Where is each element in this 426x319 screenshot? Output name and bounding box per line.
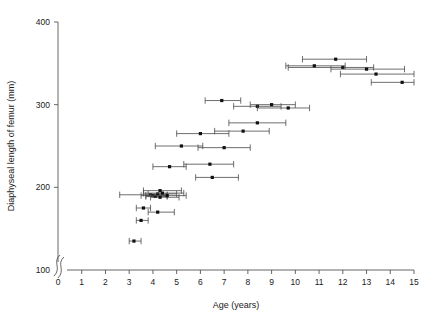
data-point-marker — [211, 176, 214, 179]
data-point-marker — [132, 239, 135, 242]
data-point-marker — [166, 194, 169, 197]
data-point-marker — [223, 146, 226, 149]
data-point-marker — [256, 121, 259, 124]
x-tick-label-10: 10 — [291, 277, 301, 287]
data-point-marker — [180, 144, 183, 147]
x-tick-label-7: 7 — [222, 277, 227, 287]
x-tick-label-0: 0 — [56, 277, 61, 287]
x-tick-label-5: 5 — [174, 277, 179, 287]
x-tick-label-2: 2 — [103, 277, 108, 287]
x-tick-label-11: 11 — [315, 277, 324, 287]
x-tick-label-6: 6 — [198, 277, 203, 287]
data-point-marker — [158, 196, 161, 199]
data-point-marker — [156, 211, 159, 214]
data-point-marker — [270, 103, 273, 106]
data-point-marker — [313, 64, 316, 67]
x-tick-label-1: 1 — [79, 277, 84, 287]
x-tick-label-3: 3 — [127, 277, 132, 287]
y-tick-label-100: 100 — [36, 265, 50, 275]
y-axis-title: Diaphyseal length of femur (mm) — [6, 81, 16, 212]
data-point-marker — [220, 99, 223, 102]
x-axis-title: Age (years) — [213, 300, 260, 310]
data-point-marker — [401, 81, 404, 84]
data-point-marker — [287, 106, 290, 109]
x-tick-label-13: 13 — [362, 277, 372, 287]
data-point-marker — [158, 189, 161, 192]
data-point-marker — [199, 132, 202, 135]
x-tick-label-12: 12 — [338, 277, 348, 287]
data-point-marker — [242, 130, 245, 133]
data-point-marker — [208, 163, 211, 166]
y-tick-label-300: 300 — [36, 100, 50, 110]
scatter-chart: 0123456789101112131415100200300400Age (y… — [0, 0, 426, 319]
x-tick-label-9: 9 — [269, 277, 274, 287]
x-tick-label-8: 8 — [245, 277, 250, 287]
data-point-marker — [334, 58, 337, 61]
data-point-marker — [374, 72, 377, 75]
axis-break-icon — [54, 255, 64, 278]
y-tick-label-400: 400 — [36, 17, 50, 27]
x-tick-label-4: 4 — [151, 277, 156, 287]
data-point-marker — [142, 206, 145, 209]
x-tick-label-14: 14 — [386, 277, 396, 287]
y-tick-label-200: 200 — [36, 182, 50, 192]
data-point-marker — [341, 66, 344, 69]
x-tick-label-15: 15 — [409, 277, 419, 287]
data-point-marker — [365, 68, 368, 71]
data-point-marker — [139, 219, 142, 222]
data-point-marker — [168, 165, 171, 168]
